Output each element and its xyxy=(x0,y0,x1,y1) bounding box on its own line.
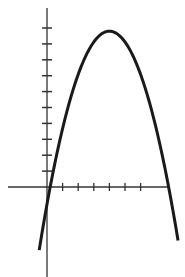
axes xyxy=(8,8,168,277)
parabola-curve xyxy=(39,31,178,250)
plot-area xyxy=(0,0,185,277)
parabola-chart xyxy=(0,0,185,277)
tick-marks xyxy=(42,28,141,191)
